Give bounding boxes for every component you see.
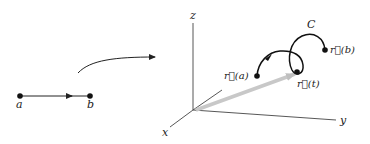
curve-end-point [322,47,328,53]
label-x: x [162,126,169,139]
label-r-t: r⃗(t) [297,78,320,89]
curve-t-point [294,69,300,75]
label-r-a: r⃗(a) [224,70,249,81]
x-axis [170,110,193,127]
label-z: z [189,9,196,22]
label-y: y [339,114,347,127]
mapping-arrow-icon [78,57,155,73]
curve-start-point [254,73,260,79]
y-axis [193,110,336,120]
label-b: b [87,98,94,111]
diagram-canvas: a b z y x C r⃗(a) r⃗(t) r⃗(b) [0,0,370,144]
curve-c [254,34,328,78]
axes [170,23,336,127]
label-a: a [16,98,23,111]
label-r-b: r⃗(b) [330,44,355,55]
label-curve-c: C [307,18,316,31]
interval-segment [17,93,93,99]
